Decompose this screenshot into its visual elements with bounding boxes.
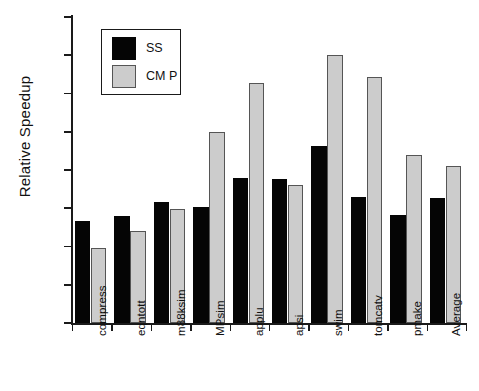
black-square-icon <box>112 37 136 60</box>
bar-apsi-cmp <box>288 185 304 323</box>
x-axis-label-m88ksim: m88ksim <box>175 289 187 336</box>
y-tick-mark <box>64 246 71 248</box>
x-tick-mark <box>387 324 388 331</box>
y-axis-title: Relative Speedup <box>16 47 33 227</box>
x-tick-mark <box>466 324 467 331</box>
bar-applu-cmp <box>249 83 265 323</box>
legend-label-ss: SS <box>146 41 163 55</box>
y-tick-mark <box>64 169 71 171</box>
y-tick-mark <box>64 93 71 95</box>
x-axis-label-tomcatv: tomcatv <box>372 295 384 336</box>
bar-swim-cmp <box>327 55 343 323</box>
legend-label-cmp: CM P <box>146 69 177 83</box>
bar-pmake-cmp <box>406 155 422 323</box>
relative-speedup-bar-chart: Relative Speedup 00.511.522.533.54 compr… <box>0 0 479 391</box>
x-axis-label-pmake: pmake <box>411 301 423 336</box>
gray-square-icon <box>112 65 136 88</box>
x-tick-mark <box>427 324 428 331</box>
chart-legend: SS CM P <box>101 29 181 95</box>
x-axis-label-swim: swim <box>332 309 344 336</box>
x-axis-label-compress: compress <box>96 285 108 336</box>
bar-applu-ss <box>233 178 249 323</box>
y-tick-mark <box>64 54 71 56</box>
x-tick-mark <box>111 324 112 331</box>
bar-m88ksim-ss <box>154 202 170 323</box>
y-tick-mark <box>64 16 71 18</box>
bar-swim-ss <box>311 146 327 323</box>
y-tick-mark <box>64 207 71 209</box>
y-tick-mark <box>64 322 71 324</box>
bar-tomcatv-ss <box>351 197 367 323</box>
bar-apsi-ss <box>272 179 288 323</box>
bar-average-ss <box>430 198 446 323</box>
y-tick-mark <box>64 131 71 133</box>
x-tick-mark <box>72 324 73 331</box>
x-axis-label-average: Average <box>450 293 462 336</box>
bar-mpsim-ss <box>193 207 209 323</box>
x-axis-label-applu: applu <box>253 307 265 336</box>
x-axis-label-mpsim: MPsim <box>214 300 226 336</box>
x-tick-mark <box>151 324 152 331</box>
bar-compress-ss <box>75 221 91 323</box>
x-tick-mark <box>348 324 349 331</box>
bar-pmake-ss <box>390 215 406 323</box>
bar-eqntott-ss <box>114 216 130 323</box>
y-tick-mark <box>64 284 71 286</box>
bar-tomcatv-cmp <box>367 77 383 323</box>
x-axis-label-apsi: apsi <box>293 315 305 337</box>
x-tick-mark <box>308 324 309 331</box>
x-tick-mark <box>190 324 191 331</box>
x-tick-mark <box>230 324 231 331</box>
x-axis-label-eqntott: eqntott <box>135 300 147 336</box>
bar-mpsim-cmp <box>209 132 225 323</box>
x-tick-mark <box>269 324 270 331</box>
y-axis-line <box>71 15 73 325</box>
